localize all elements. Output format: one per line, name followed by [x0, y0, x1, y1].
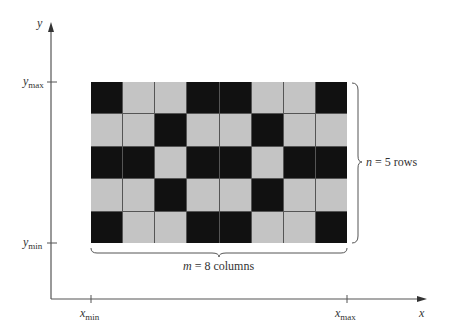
grid-cell: [220, 179, 251, 210]
xmax-label: xmax: [335, 306, 356, 322]
grid-cell: [252, 147, 283, 178]
x-axis-label: x: [419, 306, 424, 321]
ymax-label: ymax: [23, 74, 44, 90]
grid-cell: [187, 179, 218, 210]
grid-cell: [187, 212, 218, 243]
grid-cell: [316, 147, 347, 178]
grid-cell: [155, 82, 186, 113]
rows-annotation: n = 5 rows: [366, 155, 417, 170]
y-axis-arrow-icon: [48, 22, 54, 32]
grid-cell: [220, 114, 251, 145]
grid-cell: [220, 147, 251, 178]
grid-cell: [284, 82, 315, 113]
grid-cell: [155, 114, 186, 145]
grid-cell: [284, 114, 315, 145]
grid-cell: [91, 147, 122, 178]
y-axis-label: y: [37, 16, 42, 31]
grid-cell: [91, 82, 122, 113]
ymin-label: ymin: [23, 235, 42, 251]
grid-cell: [316, 179, 347, 210]
grid-cell: [187, 147, 218, 178]
grid-cell: [187, 82, 218, 113]
grid-cell: [220, 82, 251, 113]
grid-cell: [316, 212, 347, 243]
grid-cell: [252, 82, 283, 113]
grid-cell: [252, 212, 283, 243]
columns-annotation: m = 8 columns: [183, 259, 254, 274]
grid-cell: [316, 114, 347, 145]
grid-cell: [123, 212, 154, 243]
grid-cell: [155, 212, 186, 243]
grid-cell: [155, 179, 186, 210]
grid-cell: [284, 147, 315, 178]
grid-cell: [123, 114, 154, 145]
xmin-label: xmin: [80, 306, 99, 322]
grid-cell: [316, 82, 347, 113]
grid-cell: [220, 212, 251, 243]
grid-cell: [91, 179, 122, 210]
x-axis-arrow-icon: [417, 296, 427, 302]
grid-cell: [252, 179, 283, 210]
grid-cell: [91, 212, 122, 243]
pixel-grid: [91, 82, 347, 243]
grid-cell: [284, 179, 315, 210]
grid-cell: [155, 147, 186, 178]
columns-brace: [91, 248, 347, 257]
grid-cell: [123, 179, 154, 210]
grid-cell: [187, 114, 218, 145]
rows-brace: [352, 83, 362, 243]
grid-cell: [91, 114, 122, 145]
grid-cell: [123, 147, 154, 178]
grid-cell: [123, 82, 154, 113]
grid-cell: [284, 212, 315, 243]
grid-cell: [252, 114, 283, 145]
